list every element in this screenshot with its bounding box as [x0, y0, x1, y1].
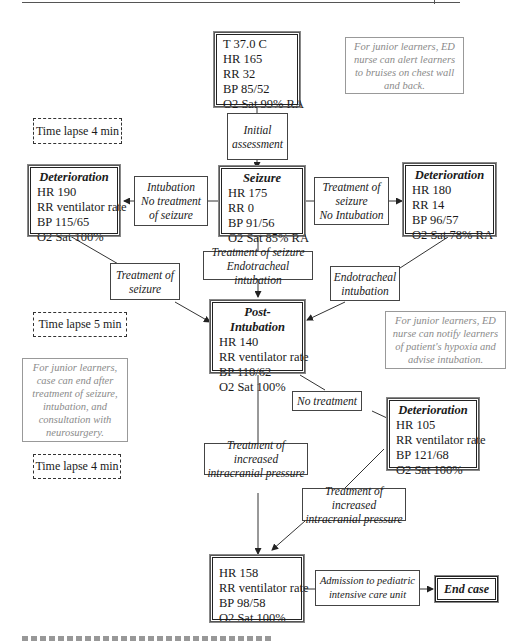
- transition-initial-assessment: Initial assessment: [227, 113, 288, 160]
- node-title: Deterioration: [396, 403, 470, 418]
- transition-line: intubation: [331, 284, 399, 298]
- transition-line: No Intubation: [315, 208, 388, 222]
- post-intubation-node: Post-Intubation HR 140 RR ventilator rat…: [210, 300, 305, 373]
- deterioration-right-node: Deterioration HR 180 RR 14 BP 96/57 O2 S…: [403, 163, 496, 236]
- transition-line: seizure: [111, 282, 179, 296]
- transition-line: Treatment of: [315, 180, 388, 194]
- node-title: Deterioration: [412, 168, 487, 183]
- vital-line: RR 14: [412, 198, 487, 213]
- deterioration-lower-node: Deterioration HR 105 RR ventilator rate …: [387, 398, 479, 470]
- vital-line: RR ventilator rate: [219, 581, 295, 596]
- transition-line: intracranial pressure: [205, 466, 307, 480]
- time-lapse-1: Time lapse 4 min: [33, 118, 122, 144]
- vital-line: BP 91/56: [228, 216, 296, 231]
- transition-line: No treatment: [135, 194, 207, 208]
- vital-line: RR ventilator rate: [219, 350, 296, 365]
- transition-line: assessment: [228, 137, 287, 151]
- vital-line: HR 190: [37, 185, 111, 200]
- time-lapse-label: Time lapse 4 min: [36, 124, 119, 139]
- vital-line: RR 0: [228, 201, 296, 216]
- vital-line: HR 158: [219, 566, 295, 581]
- vital-line: O2 Sat 100%: [396, 463, 470, 478]
- transition-line: of seizure: [135, 208, 207, 222]
- transition-line: Treatment of seizure: [204, 245, 312, 259]
- node-title: Deterioration: [37, 170, 111, 185]
- time-lapse-3: Time lapse 4 min: [33, 454, 121, 479]
- transition-intubation-no-treatment: Intubation No treatment of seizure: [134, 176, 208, 226]
- transition-treatment-of-seizure: Treatment of seizure: [110, 263, 180, 300]
- transition-line: Treatment of increased: [205, 438, 307, 466]
- vital-line: BP 98/58: [219, 596, 295, 611]
- transition-line: seizure: [315, 194, 388, 208]
- vital-line: BP 121/68: [396, 448, 470, 463]
- time-lapse-2: Time lapse 5 min: [33, 312, 127, 337]
- transition-line: Treatment of increased: [303, 484, 405, 512]
- initial-vitals-node: T 37.0 C HR 165 RR 32 BP 85/52 O2 Sat 99…: [214, 32, 300, 107]
- note-text: For junior learners, ED nurse can notify…: [392, 314, 499, 366]
- node-title: Post-Intubation: [219, 305, 296, 335]
- note-text: For junior learners, ED nurse can alert …: [352, 40, 457, 92]
- node-title: Seizure: [228, 171, 296, 186]
- transition-line: intensive care unit: [316, 588, 419, 602]
- transition-line: Initial: [228, 123, 287, 137]
- transition-icp-treatment-left: Treatment of increased intracranial pres…: [204, 443, 308, 475]
- note-bruises: For junior learners, ED nurse can alert …: [345, 37, 464, 94]
- vital-line: RR ventilator rate: [396, 433, 470, 448]
- transition-no-treatment: No treatment: [292, 391, 362, 411]
- vital-line: T 37.0 C: [223, 37, 291, 52]
- vital-line: RR 32: [223, 67, 291, 82]
- deterioration-left-node: Deterioration HR 190 RR ventilator rate …: [28, 165, 120, 236]
- vital-line: BP 85/52: [223, 82, 291, 97]
- transition-endotracheal-intubation: Endotracheal intubation: [330, 266, 400, 301]
- note-hypoxia: For junior learners, ED nurse can notify…: [385, 311, 506, 369]
- time-lapse-label: Time lapse 5 min: [38, 317, 121, 332]
- transition-line: No treatment: [293, 394, 361, 408]
- vital-line: BP 110/62: [219, 365, 296, 380]
- vital-line: HR 175: [228, 186, 296, 201]
- transition-line: Endotracheal intubation: [204, 259, 312, 287]
- transition-icp-treatment-right: Treatment of increased intracranial pres…: [302, 488, 406, 521]
- final-vitals-node: HR 158 RR ventilator rate BP 98/58 O2 Sa…: [210, 555, 304, 622]
- vital-line: O2 Sat 100%: [219, 611, 295, 626]
- vital-line: O2 Sat 100%: [37, 230, 111, 245]
- note-text: For junior learners, case can end after …: [29, 361, 121, 439]
- transition-line: Treatment of: [111, 268, 179, 282]
- vital-line: O2 Sat 100%: [219, 380, 296, 395]
- vital-line: HR 165: [223, 52, 291, 67]
- seizure-node: Seizure HR 175 RR 0 BP 91/56 O2 Sat 85% …: [219, 166, 305, 236]
- vital-line: HR 105: [396, 418, 470, 433]
- figure-caption-truncated: [22, 636, 272, 641]
- vital-line: BP 115/65: [37, 215, 111, 230]
- time-lapse-label: Time lapse 4 min: [35, 459, 118, 474]
- transition-line: Intubation: [135, 180, 207, 194]
- vital-line: HR 140: [219, 335, 296, 350]
- vital-line: RR ventilator rate: [37, 200, 111, 215]
- transition-line: Endotracheal: [331, 270, 399, 284]
- vital-line: O2 Sat 78% RA: [412, 228, 487, 243]
- transition-treatment-and-intubation: Treatment of seizure Endotracheal intuba…: [203, 251, 313, 280]
- transition-line: intracranial pressure: [303, 512, 405, 526]
- transition-line: Admission to pediatric: [316, 574, 419, 588]
- end-case-node: End case: [435, 576, 498, 602]
- note-case-end: For junior learners, case can end after …: [22, 358, 128, 442]
- end-case-label: End case: [444, 582, 489, 597]
- vital-line: O2 Sat 99% RA: [223, 97, 291, 112]
- transition-picu-admission: Admission to pediatric intensive care un…: [315, 570, 420, 606]
- transition-treatment-no-intubation: Treatment of seizure No Intubation: [314, 177, 389, 225]
- vital-line: HR 180: [412, 183, 487, 198]
- vital-line: BP 96/57: [412, 213, 487, 228]
